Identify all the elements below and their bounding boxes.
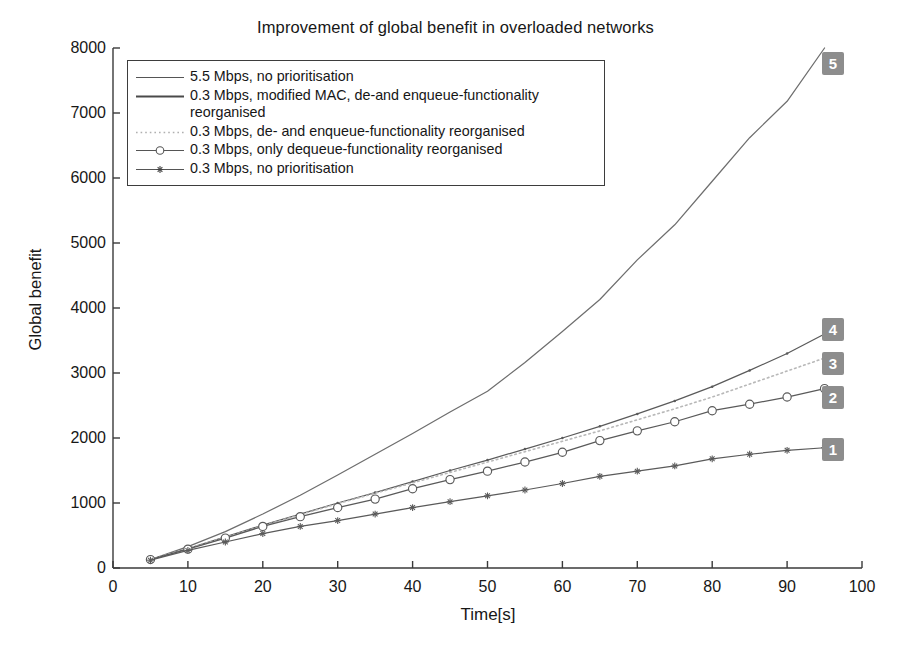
dot-marker <box>636 413 639 416</box>
series-badge-3: 3 <box>822 352 844 375</box>
circle-marker <box>409 485 417 493</box>
circle-marker <box>746 400 754 408</box>
dot-marker <box>449 469 452 472</box>
dot-marker <box>561 437 564 440</box>
legend-line-sample-icon <box>134 68 186 86</box>
dot-marker <box>748 369 751 372</box>
legend-item: 0.3 Mbps, de- and enqueue-functionality … <box>134 123 596 141</box>
dot-marker <box>786 352 789 355</box>
legend-item: 5.5 Mbps, no prioritisation <box>134 68 596 86</box>
legend-line-sample-icon <box>134 160 186 178</box>
legend-item-label: 5.5 Mbps, no prioritisation <box>190 68 596 86</box>
circle-marker <box>783 393 791 401</box>
circle-marker <box>521 458 529 466</box>
legend-item-label: 0.3 Mbps, only dequeue-functionality reo… <box>190 141 596 159</box>
circle-marker <box>371 495 379 503</box>
circle-marker <box>296 513 304 521</box>
dot-marker <box>674 400 677 403</box>
chart-figure: Improvement of global benefit in overloa… <box>0 0 911 650</box>
legend-line-sample-icon <box>134 87 186 105</box>
dot-marker <box>711 385 714 388</box>
dot-marker <box>524 448 527 451</box>
circle-marker <box>596 437 604 445</box>
circle-marker <box>671 418 679 426</box>
legend-line-sample-icon <box>134 141 186 159</box>
legend-item: 0.3 Mbps, modified MAC, de-and enqueue-f… <box>134 87 596 122</box>
dot-marker <box>599 425 602 428</box>
circle-marker <box>446 476 454 484</box>
circle-marker <box>708 407 716 415</box>
legend: 5.5 Mbps, no prioritisation0.3 Mbps, mod… <box>127 60 605 186</box>
legend-line-sample-icon <box>134 123 186 141</box>
series-badge-1: 1 <box>822 438 844 461</box>
circle-marker <box>334 503 342 511</box>
legend-star-marker-icon <box>157 166 164 173</box>
legend-item-label: 0.3 Mbps, de- and enqueue-functionality … <box>190 123 596 141</box>
legend-item: 0.3 Mbps, no prioritisation <box>134 160 596 178</box>
series-line <box>150 334 824 560</box>
legend-item-label: 0.3 Mbps, no prioritisation <box>190 160 596 178</box>
circle-marker <box>633 427 641 435</box>
series-2 <box>149 333 826 561</box>
legend-circle-marker-icon <box>156 147 164 155</box>
dot-marker <box>486 459 489 462</box>
series-badge-2: 2 <box>822 386 844 409</box>
circle-marker <box>558 448 566 456</box>
series-badge-4: 4 <box>822 318 844 341</box>
circle-marker <box>483 467 491 475</box>
legend-item-label: 0.3 Mbps, modified MAC, de-and enqueue-f… <box>190 87 596 122</box>
circle-marker <box>259 522 267 530</box>
series-line <box>150 448 824 560</box>
series-badge-5: 5 <box>822 52 844 75</box>
legend-item: 0.3 Mbps, only dequeue-functionality reo… <box>134 141 596 159</box>
